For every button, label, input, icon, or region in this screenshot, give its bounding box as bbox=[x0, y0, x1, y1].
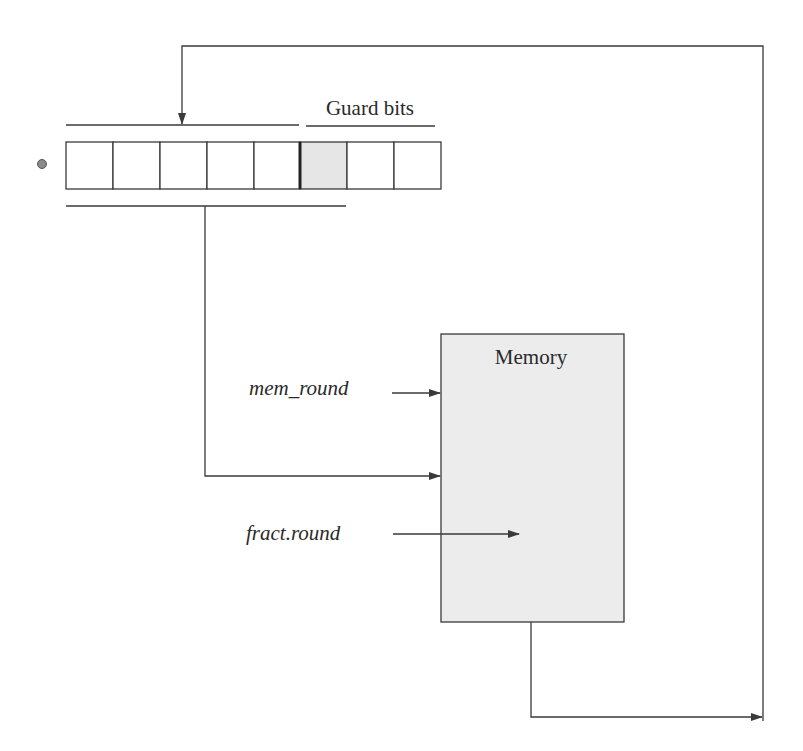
register-cell bbox=[66, 142, 113, 189]
register-to-memory-path bbox=[205, 206, 440, 476]
memory-block bbox=[441, 334, 624, 622]
fract-round-label: fract.round bbox=[246, 521, 341, 545]
register-cell bbox=[347, 142, 394, 189]
memory-output-path bbox=[531, 622, 762, 717]
register-cell bbox=[254, 142, 300, 189]
memory-label: Memory bbox=[495, 345, 568, 369]
register bbox=[66, 142, 441, 189]
rounding-diagram: Guard bits Memory mem_round fract.round bbox=[0, 0, 803, 751]
radix-point-dot bbox=[38, 160, 47, 169]
register-cell bbox=[113, 142, 160, 189]
register-cell bbox=[160, 142, 207, 189]
register-cell bbox=[394, 142, 441, 189]
register-cell bbox=[207, 142, 254, 189]
guard-bits-label: Guard bits bbox=[326, 96, 414, 120]
mem-round-label: mem_round bbox=[249, 376, 349, 400]
guard-cell-shaded bbox=[300, 142, 347, 189]
